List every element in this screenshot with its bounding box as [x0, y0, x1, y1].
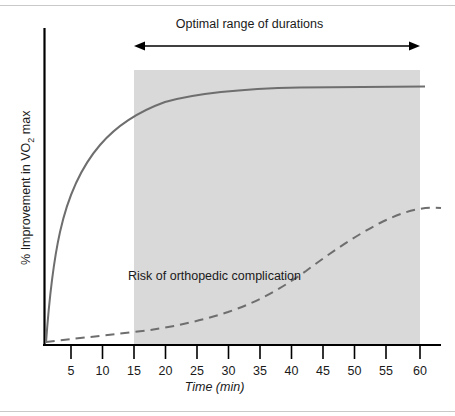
- y-axis-title-subscript: 2: [26, 138, 36, 143]
- x-axis-ticks: [71, 345, 420, 359]
- chart-canvas: [0, 0, 455, 416]
- x-tick-label-5: 5: [68, 365, 75, 378]
- x-tick-label-55: 55: [379, 365, 393, 378]
- shaded-risk-region: [134, 70, 420, 345]
- figure-panel: Optimal range of durations Risk of ortho…: [0, 0, 455, 416]
- y-axis-title: % Improvement in V̇O2 max: [20, 68, 36, 308]
- x-tick-label-60: 60: [413, 365, 427, 378]
- y-axis-title-o: O: [19, 143, 33, 153]
- x-tick-label-25: 25: [190, 365, 204, 378]
- x-tick-label-15: 15: [127, 365, 141, 378]
- x-tick-label-30: 30: [222, 365, 236, 378]
- x-tick-label-45: 45: [316, 365, 330, 378]
- y-axis-title-suffix: max: [19, 111, 33, 138]
- x-tick-label-50: 50: [348, 365, 362, 378]
- x-axis-title-text: Time (min): [185, 380, 245, 394]
- x-tick-label-10: 10: [96, 365, 110, 378]
- optimal-range-arrow: [134, 42, 420, 51]
- optimal-range-title-text: Optimal range of durations: [176, 17, 323, 31]
- risk-region-label: Risk of orthopedic complication: [128, 270, 301, 283]
- x-tick-label-35: 35: [253, 365, 267, 378]
- x-tick-label-20: 20: [159, 365, 173, 378]
- x-tick-label-40: 40: [285, 365, 299, 378]
- x-axis-title: Time (min): [0, 381, 455, 394]
- y-axis-title-prefix: % Improvement in V: [19, 152, 33, 265]
- optimal-range-title: Optimal range of durations: [0, 18, 455, 31]
